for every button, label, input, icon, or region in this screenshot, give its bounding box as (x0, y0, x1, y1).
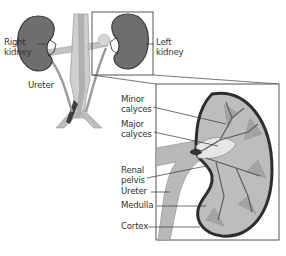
label-line: calyces (121, 130, 152, 140)
label-minor-calyces: Minor calyces (121, 95, 152, 114)
label-ureter-detail: Ureter (121, 187, 147, 197)
label-medulla: Medulla (121, 201, 153, 211)
inset-detail (156, 84, 279, 240)
label-major-calyces: Major calyces (121, 120, 152, 139)
label-line: pelvis (121, 176, 145, 186)
label-renal-pelvis: Renal pelvis (121, 166, 145, 185)
label-line: calyces (121, 105, 152, 115)
kidney-diagram: Right kidney Left kidney Ureter Minor ca… (0, 0, 286, 256)
label-line: kidney (156, 48, 183, 58)
label-left-kidney: Left kidney (156, 38, 183, 57)
label-ureter-overview: Ureter (28, 81, 54, 91)
label-cortex: Cortex (121, 222, 148, 232)
left-kidney (98, 14, 148, 69)
label-right-kidney: Right kidney (4, 38, 31, 57)
label-line: kidney (4, 48, 31, 58)
